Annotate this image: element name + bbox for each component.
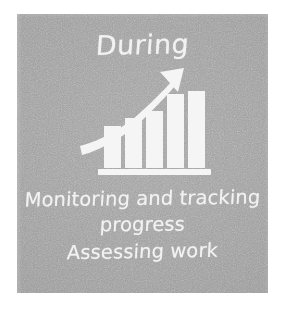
chart-baseline [98, 169, 211, 175]
info-card: During [17, 14, 268, 293]
card-content: During [17, 14, 268, 293]
bar-3 [146, 111, 163, 168]
image-canvas: During [0, 0, 285, 309]
bar-5 [188, 91, 205, 168]
bar-1 [104, 126, 121, 168]
caption-block: Monitoring and tracking progress Assessi… [17, 186, 268, 265]
caption-line-2: progress [17, 211, 268, 239]
growth-chart-icon [72, 66, 212, 176]
page-title: During [17, 27, 268, 62]
bar-4 [167, 94, 184, 168]
caption-line-1: Monitoring and tracking [17, 184, 268, 213]
caption-line-3: Assessing work [17, 236, 268, 267]
bar-2 [125, 118, 142, 168]
